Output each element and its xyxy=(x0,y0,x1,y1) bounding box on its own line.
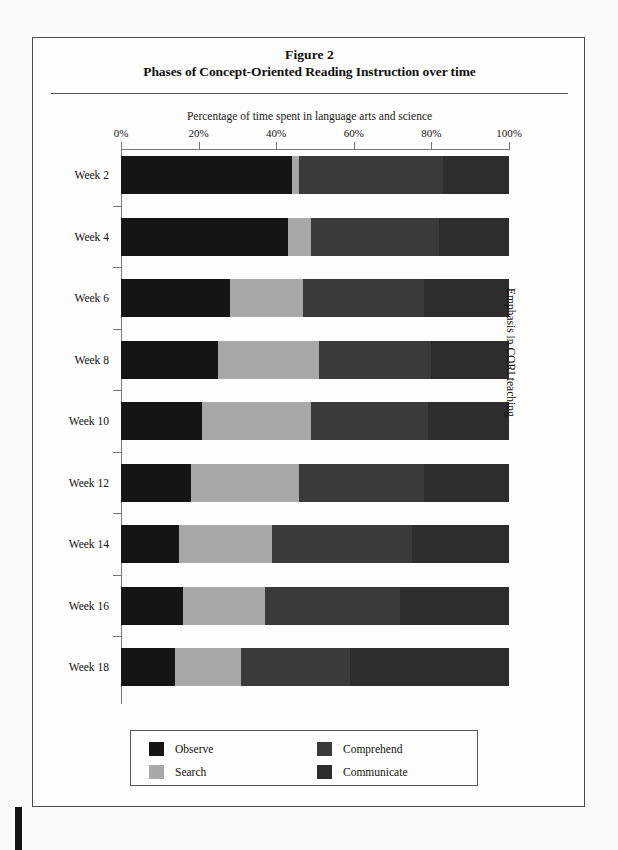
bar-segment-search xyxy=(230,279,304,317)
chart-legend: ObserveSearchComprehendCommunicate xyxy=(130,730,478,786)
bar-segment-communicate xyxy=(400,587,509,625)
x-axis-tick xyxy=(431,142,432,150)
bar-segment-observe xyxy=(121,402,202,440)
y-category-label: Week 12 xyxy=(33,464,109,502)
bar-segment-comprehend xyxy=(299,156,443,194)
y-axis-tick xyxy=(113,513,122,514)
bar-segment-observe xyxy=(121,648,175,686)
y-category-label: Week 14 xyxy=(33,525,109,563)
y-axis-title: Emphasis in CORI teaching xyxy=(505,288,517,417)
bar-segment-communicate xyxy=(443,156,509,194)
bar-row xyxy=(121,648,509,686)
bar-segment-communicate xyxy=(431,341,509,379)
y-axis-tick xyxy=(113,206,122,207)
y-axis-tick xyxy=(113,452,122,453)
bar-segment-observe xyxy=(121,525,179,563)
bar-row xyxy=(121,218,509,256)
legend-label: Communicate xyxy=(343,761,408,783)
bar-segment-observe xyxy=(121,218,288,256)
legend-label: Comprehend xyxy=(343,738,402,760)
legend-swatch-communicate xyxy=(317,765,332,779)
bar-row xyxy=(121,341,509,379)
legend-label: Search xyxy=(175,761,206,783)
bar-segment-comprehend xyxy=(272,525,412,563)
bar-segment-observe xyxy=(121,341,218,379)
bar-segment-search xyxy=(288,218,311,256)
legend-swatch-observe xyxy=(149,742,164,756)
bar-row xyxy=(121,156,509,194)
bar-row xyxy=(121,587,509,625)
x-axis-tick xyxy=(354,142,355,150)
plot-area: Week 2Week 4Week 6Week 8Week 10Week 12We… xyxy=(33,38,586,808)
bar-row xyxy=(121,279,509,317)
bar-segment-communicate xyxy=(424,464,509,502)
y-category-label: Week 18 xyxy=(33,648,109,686)
bar-segment-comprehend xyxy=(319,341,432,379)
y-category-label: Week 2 xyxy=(33,156,109,194)
legend-label: Observe xyxy=(175,738,213,760)
scan-edge-artifact xyxy=(15,807,22,850)
y-axis-tick xyxy=(113,575,122,576)
y-category-label: Week 16 xyxy=(33,587,109,625)
bar-segment-comprehend xyxy=(303,279,423,317)
x-axis-tick xyxy=(276,142,277,150)
x-axis-tick xyxy=(199,142,200,150)
bar-segment-comprehend xyxy=(311,402,427,440)
bar-segment-search xyxy=(218,341,319,379)
bar-segment-search xyxy=(175,648,241,686)
y-axis-tick xyxy=(113,267,122,268)
bar-row xyxy=(121,525,509,563)
bar-segment-search xyxy=(179,525,272,563)
legend-swatch-search xyxy=(149,765,164,779)
bar-segment-observe xyxy=(121,279,230,317)
y-category-label: Week 4 xyxy=(33,218,109,256)
y-axis-tick xyxy=(113,329,122,330)
bar-segment-search xyxy=(292,156,300,194)
bar-row xyxy=(121,402,509,440)
bar-segment-communicate xyxy=(439,218,509,256)
bar-segment-search xyxy=(183,587,264,625)
bar-segment-search xyxy=(191,464,300,502)
bar-segment-observe xyxy=(121,156,292,194)
y-category-label: Week 10 xyxy=(33,402,109,440)
bar-segment-communicate xyxy=(424,279,509,317)
bar-segment-observe xyxy=(121,464,191,502)
bar-segment-comprehend xyxy=(311,218,439,256)
bar-segment-search xyxy=(202,402,311,440)
bar-segment-comprehend xyxy=(265,587,401,625)
y-category-label: Week 6 xyxy=(33,279,109,317)
bar-segment-observe xyxy=(121,587,183,625)
y-category-label: Week 8 xyxy=(33,341,109,379)
bar-row xyxy=(121,464,509,502)
y-axis-tick xyxy=(113,390,122,391)
y-axis-tick xyxy=(113,636,122,637)
bar-segment-comprehend xyxy=(241,648,350,686)
legend-swatch-comprehend xyxy=(317,742,332,756)
figure-frame: Figure 2 Phases of Concept-Oriented Read… xyxy=(32,37,585,807)
bar-segment-communicate xyxy=(350,648,509,686)
bar-segment-communicate xyxy=(428,402,509,440)
bar-segment-comprehend xyxy=(299,464,423,502)
bar-segment-communicate xyxy=(412,525,509,563)
